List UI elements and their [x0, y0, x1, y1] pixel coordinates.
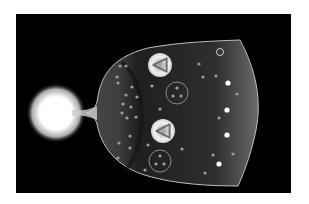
- galaxy-dot: [214, 74, 217, 77]
- galaxy-dot: [158, 107, 161, 110]
- galaxy-dot: [117, 141, 120, 144]
- galaxy-dot: [211, 153, 214, 156]
- triangle-marker-disc: [151, 119, 175, 143]
- galaxy-dot: [121, 102, 124, 105]
- galaxy-dot: [201, 75, 204, 78]
- galaxy-dot: [231, 152, 234, 155]
- galaxy-dot: [129, 105, 132, 108]
- galaxy-dot: [116, 81, 119, 84]
- galaxy-dot: [118, 64, 121, 67]
- galaxy-dot: [203, 171, 206, 174]
- galaxy-dot: [134, 115, 137, 118]
- galaxy-dot: [225, 80, 230, 85]
- galaxy-dot: [216, 161, 221, 166]
- galaxy-dot: [128, 134, 131, 137]
- galaxy-dot: [224, 107, 229, 112]
- galaxy-dot: [115, 75, 118, 78]
- expanding-universe-volume: [86, 40, 258, 186]
- galaxy-dot: [197, 62, 200, 65]
- galaxy-dot: [124, 93, 127, 96]
- galaxy-dot: [224, 132, 229, 137]
- galaxy-dot: [217, 116, 220, 119]
- galaxy-dot: [135, 95, 138, 98]
- galaxy-dot: [150, 84, 153, 87]
- galaxy-dot: [124, 64, 127, 67]
- galaxy-dot: [125, 116, 128, 119]
- galaxy-dot: [143, 168, 146, 171]
- galaxy-dot: [180, 147, 183, 150]
- galaxy-dot: [146, 143, 149, 146]
- galaxy-dot: [128, 146, 131, 149]
- galaxy-dot: [130, 85, 133, 88]
- cosmic-expansion-diagram: [0, 0, 309, 204]
- galaxy-dot: [120, 111, 123, 114]
- galaxy-dot: [235, 92, 238, 95]
- galaxy-dot: [116, 156, 119, 159]
- triangle-marker-disc: [148, 53, 172, 77]
